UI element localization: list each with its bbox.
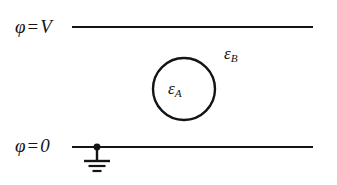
top-potential-operator: = [26,16,41,37]
bottom-potential-value: 0 [40,135,50,156]
bottom-potential-operator: = [26,135,41,156]
top-potential-symbol: φ [15,16,26,37]
bottom-potential-symbol: φ [15,135,26,156]
outer-permittivity-symbol: ε [224,44,231,63]
top-potential-value: V [40,16,52,37]
inner-permittivity-symbol: ε [168,79,175,98]
outer-permittivity-label: εB [224,45,238,64]
inner-permittivity-subscript: A [175,87,182,99]
figure-canvas: φ=V φ=0 εA εB [0,0,337,185]
outer-permittivity-subscript: B [231,52,238,64]
top-potential-label: φ=V [15,17,52,36]
inner-permittivity-label: εA [168,80,182,99]
bottom-potential-label: φ=0 [15,136,50,155]
dielectric-sphere [153,58,215,120]
